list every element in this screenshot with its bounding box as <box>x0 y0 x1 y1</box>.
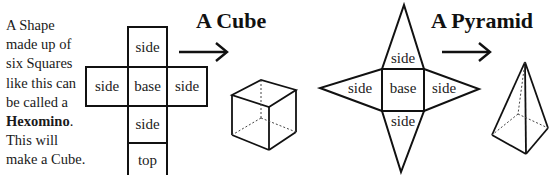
cube-3d-icon <box>232 80 296 150</box>
pyramid-net-top-side-label: side <box>391 50 416 66</box>
cube-net-left-side-label: side <box>95 78 120 94</box>
cube-net-top-side-label: side <box>135 39 160 55</box>
pyramid-net-left-side-label: side <box>348 80 373 96</box>
pyramid-net-bottom-side-label: side <box>391 113 416 129</box>
cube-net-right-side-label: side <box>175 78 200 94</box>
pyramid-net-base-label: base <box>390 80 417 96</box>
nets-diagram: side side base side side top side side b… <box>0 0 550 175</box>
cube-net-base-label: base <box>134 78 161 94</box>
pyramid-net-right-side-label: side <box>432 80 457 96</box>
arrow-right-icon <box>442 43 490 61</box>
pyramid-3d-icon <box>492 62 548 154</box>
cube-net-bottom-side-label: side <box>135 116 160 132</box>
cube-net-top-label: top <box>138 152 157 168</box>
arrow-right-icon <box>179 43 227 61</box>
